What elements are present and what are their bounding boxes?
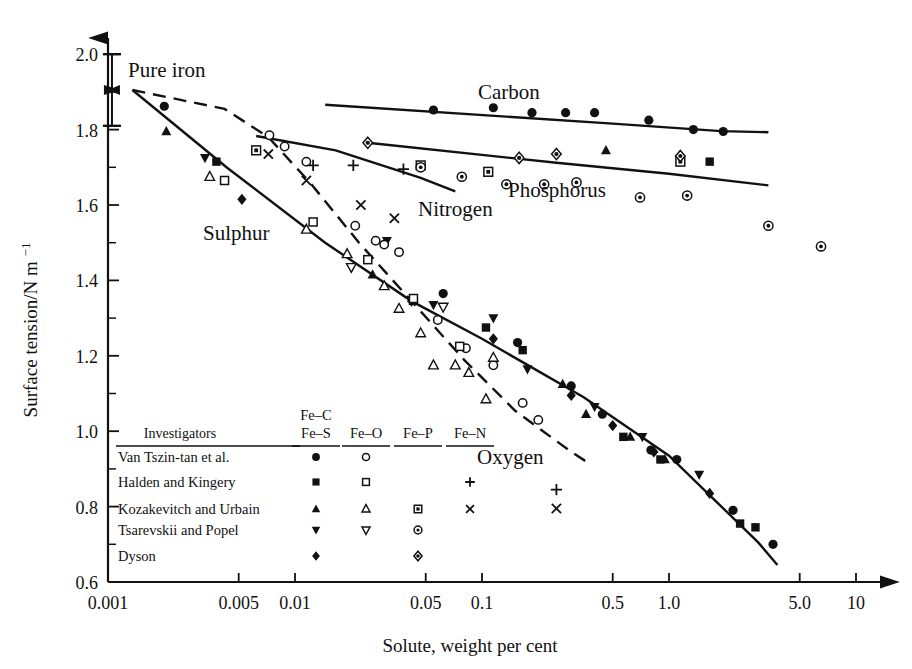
marker-filled-circle xyxy=(719,127,728,136)
marker-open-triangle-up xyxy=(362,505,370,512)
legend-title: Investigators xyxy=(144,426,216,441)
marker-filled-circle xyxy=(561,108,570,117)
figure-container: 0.0010.0050.010.050.10.51.05.0102.01.81.… xyxy=(0,0,912,669)
marker-filled-circle xyxy=(513,338,522,347)
marker-filled-square xyxy=(312,478,319,485)
marker-dotted-square xyxy=(252,146,261,155)
marker-open-circle xyxy=(434,316,442,324)
marker-filled-circle xyxy=(527,108,536,117)
marker-filled-triangle-down xyxy=(522,365,532,374)
marker-open-triangle-up xyxy=(464,368,474,377)
x-tick-label: 0.05 xyxy=(410,593,442,613)
marker-plus xyxy=(465,477,475,487)
marker-filled-circle xyxy=(598,410,607,419)
legend: Fe–CFe–SFe–OFe–PFe–NInvestigatorsVan Tsz… xyxy=(116,407,494,564)
legend-row-name-3: Tsarevskii and Popel xyxy=(118,522,239,538)
marker-cross xyxy=(466,505,474,513)
legend-col-header-0: Fe–S xyxy=(301,425,331,441)
marker-filled-square xyxy=(736,519,744,527)
marker-dotted-circle xyxy=(457,172,466,181)
marker-filled-triangle-up xyxy=(601,145,611,154)
marker-dotted-diamond xyxy=(363,137,373,148)
marker-dotted-circle xyxy=(416,163,425,172)
series-fe–p-halden-and-kingery xyxy=(705,157,713,165)
y-tick-label: 1.0 xyxy=(76,422,99,442)
marker-open-circle xyxy=(371,237,379,245)
marker-open-square xyxy=(409,294,417,302)
y-tick-label: 1.4 xyxy=(76,271,99,291)
x-tick-label: 1.0 xyxy=(658,593,681,613)
series-fe–o-van-tszin-tan-et-al. xyxy=(265,131,542,424)
marker-filled-triangle-down xyxy=(200,154,210,163)
marker-open-triangle-down xyxy=(346,264,356,273)
marker-filled-square xyxy=(751,523,759,531)
x-tick-label: 0.5 xyxy=(601,593,624,613)
marker-dotted-circle xyxy=(414,526,422,534)
marker-filled-square xyxy=(212,157,220,165)
marker-dotted-circle xyxy=(683,191,692,200)
series-fe–c-van-tszin-tan-et-al. xyxy=(429,103,728,136)
series-fe–s-dyson xyxy=(237,194,714,499)
marker-open-circle xyxy=(395,248,403,256)
marker-filled-circle xyxy=(689,125,698,134)
pure-iron-annotation: Pure iron xyxy=(128,58,206,82)
data-points xyxy=(160,102,826,549)
x-tick-label: 10 xyxy=(847,593,865,613)
marker-open-circle xyxy=(362,453,369,460)
marker-filled-circle xyxy=(429,105,438,114)
marker-filled-triangle-up xyxy=(312,504,321,512)
marker-plus xyxy=(348,160,359,171)
y-tick-label: 0.8 xyxy=(76,498,99,518)
marker-filled-triangle-up xyxy=(161,126,171,135)
marker-open-circle xyxy=(265,131,273,139)
y-axis-label: Surface tension/N m −1 xyxy=(18,243,41,418)
marker-open-square xyxy=(309,218,317,226)
curve-label-nitrogen: Nitrogen xyxy=(418,197,493,221)
marker-filled-circle xyxy=(644,116,653,125)
marker-filled-square xyxy=(482,323,490,331)
marker-open-square xyxy=(363,479,370,486)
marker-open-triangle-up xyxy=(451,360,461,369)
legend-col-header-3: Fe–N xyxy=(454,425,487,441)
marker-filled-diamond xyxy=(608,420,617,431)
marker-dotted-diamond xyxy=(552,149,562,160)
legend-col-super-fe-c: Fe–C xyxy=(300,407,331,423)
marker-filled-circle xyxy=(312,453,320,461)
series-fe–p-kozakevitch-and-urbain xyxy=(252,146,685,176)
legend-col-header-1: Fe–O xyxy=(350,425,382,441)
marker-cross xyxy=(264,150,273,159)
legend-row-name-2: Kozakevitch and Urbain xyxy=(118,501,260,517)
marker-filled-square xyxy=(705,157,713,165)
marker-dotted-diamond xyxy=(414,551,422,561)
marker-filled-diamond xyxy=(237,194,246,205)
marker-filled-circle xyxy=(728,506,737,515)
curve-label-sulphur: Sulphur xyxy=(203,221,270,245)
y-tick-label: 1.6 xyxy=(76,196,99,216)
marker-open-square xyxy=(456,342,464,350)
marker-dotted-circle xyxy=(764,221,773,230)
x-axis-label: Solute, weight per cent xyxy=(382,635,558,656)
marker-open-triangle-up xyxy=(416,328,426,337)
curve-label-carbon: Carbon xyxy=(478,80,540,104)
x-tick-label: 0.01 xyxy=(279,593,311,613)
marker-filled-triangle-up xyxy=(368,269,378,278)
x-tick-label: 0.001 xyxy=(88,593,129,613)
marker-filled-triangle-down xyxy=(428,301,438,310)
marker-filled-triangle-up xyxy=(581,409,591,418)
chart-canvas: 0.0010.0050.010.050.10.51.05.0102.01.81.… xyxy=(0,0,912,669)
marker-open-triangle-up xyxy=(481,394,491,403)
y-tick-label: 1.8 xyxy=(76,121,99,141)
marker-filled-triangle-down xyxy=(488,314,498,323)
marker-cross xyxy=(390,214,399,223)
marker-plus xyxy=(551,484,562,495)
marker-open-circle xyxy=(280,142,288,150)
marker-open-triangle-up xyxy=(489,352,499,361)
marker-open-triangle-up xyxy=(394,303,404,312)
curve-label-phosphorus: Phosphorus xyxy=(508,178,606,202)
y-tick-label: 2.0 xyxy=(76,45,99,65)
marker-open-square xyxy=(221,176,229,184)
y-label-exponent: −1 xyxy=(18,243,33,257)
marker-open-triangle-down xyxy=(362,527,370,534)
y-tick-label: 1.2 xyxy=(76,347,99,367)
marker-filled-square xyxy=(518,346,526,354)
